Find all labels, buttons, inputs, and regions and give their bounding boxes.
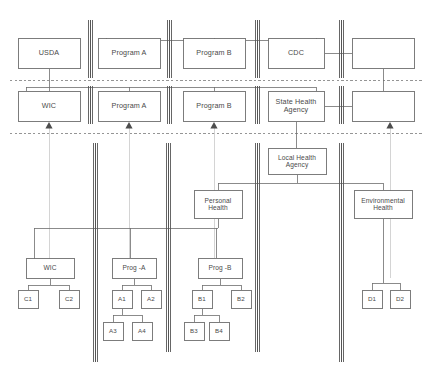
node-box-usda[interactable] — [19, 39, 81, 69]
node-box-b3[interactable] — [185, 323, 205, 341]
node-box-local_health_agency[interactable] — [269, 149, 327, 175]
node-box-state_program_a[interactable] — [99, 92, 161, 122]
arrow-program-b-icon — [210, 122, 217, 129]
arrow-program-a-icon — [125, 122, 132, 129]
node-box-svc_prog_a[interactable] — [113, 259, 157, 279]
node-box-b2[interactable] — [232, 291, 252, 309]
diagram-wiring — [0, 0, 434, 387]
node-box-cdc[interactable] — [269, 39, 325, 69]
diagram-canvas: USDAProgram AProgram BCDCWICProgram APro… — [0, 0, 434, 387]
arrow-wic-icon — [45, 122, 52, 129]
node-box-b4[interactable] — [210, 323, 230, 341]
node-box-state_program_b[interactable] — [184, 92, 246, 122]
node-box-state_health_agency[interactable] — [269, 92, 325, 122]
node-box-svc_prog_b[interactable] — [199, 259, 243, 279]
node-box-a2[interactable] — [142, 291, 162, 309]
node-box-a4[interactable] — [133, 323, 153, 341]
node-box-b1[interactable] — [193, 291, 213, 309]
node-box-wic[interactable] — [19, 92, 81, 122]
node-boxes — [19, 39, 415, 341]
node-box-d2[interactable] — [391, 291, 411, 309]
node-box-c2[interactable] — [60, 291, 80, 309]
node-box-a1[interactable] — [113, 291, 133, 309]
node-box-program_a[interactable] — [99, 39, 161, 69]
node-box-d1[interactable] — [363, 291, 383, 309]
node-box-program_b[interactable] — [184, 39, 246, 69]
node-box-state_blank[interactable] — [353, 92, 415, 122]
node-box-c1[interactable] — [19, 291, 39, 309]
node-box-svc_wic[interactable] — [27, 259, 75, 279]
node-box-environmental_health[interactable] — [355, 191, 413, 219]
node-box-fed_blank[interactable] — [353, 39, 415, 69]
node-box-personal_health[interactable] — [195, 191, 243, 219]
arrow-right-icon — [386, 122, 393, 129]
node-box-a3[interactable] — [104, 323, 124, 341]
